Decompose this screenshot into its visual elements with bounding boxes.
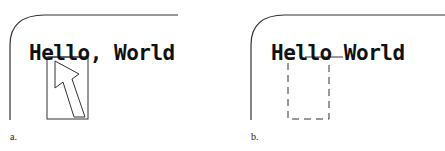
panel-b: Hello World b. [225,0,445,151]
cursor-icon [55,61,85,117]
hello-world-text: Hello World [271,43,405,64]
caption-b: b. [251,131,259,142]
window-frame-b [225,0,445,151]
panel-a: Hello, World a. [0,0,225,151]
caption-a: a. [10,131,17,142]
hello-world-text: Hello, World [29,43,175,64]
window-frame-a [0,0,225,151]
dashed-selection-rectangle [288,58,329,119]
